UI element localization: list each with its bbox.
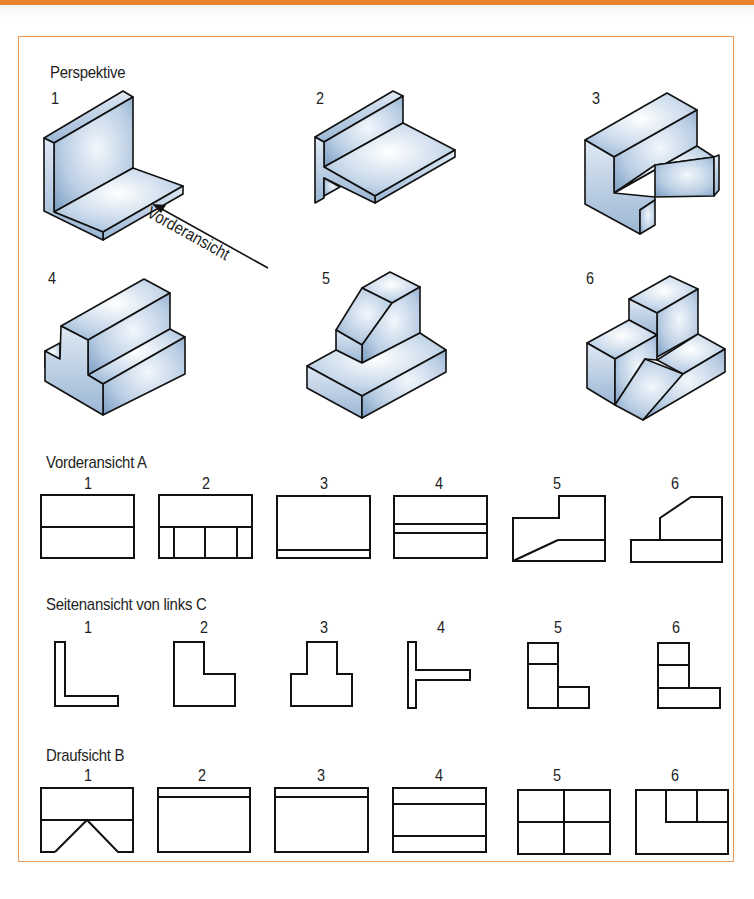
front-view-5 <box>513 496 605 561</box>
side-view-2 <box>174 642 235 706</box>
top-view-number-6: 6 <box>667 766 684 786</box>
top-view-6 <box>636 790 728 854</box>
top-view-number-4: 4 <box>431 766 448 786</box>
side-view-number-1: 1 <box>80 618 97 638</box>
side-view-number-5: 5 <box>550 618 567 638</box>
top-view-number-1: 1 <box>80 766 97 786</box>
side-view-number-6: 6 <box>668 618 685 638</box>
perspective-shape-2 <box>315 91 455 203</box>
front-view-4 <box>394 496 487 558</box>
side-view-6 <box>658 643 720 708</box>
section-title-side-view: Seitenansicht von links C <box>46 595 207 615</box>
front-views <box>41 495 722 562</box>
side-view-number-2: 2 <box>196 618 213 638</box>
top-view-2 <box>158 788 250 852</box>
side-view-4 <box>408 642 470 708</box>
front-view-3 <box>277 496 370 558</box>
front-view-number-4: 4 <box>431 474 448 494</box>
side-view-number-3: 3 <box>316 618 333 638</box>
top-view-5 <box>518 790 610 854</box>
perspective-shape-4 <box>45 279 185 415</box>
top-views <box>41 788 728 854</box>
section-title-front-view: Vorderansicht A <box>46 453 147 473</box>
section-title-perspective: Perspektive <box>50 63 125 83</box>
top-view-number-3: 3 <box>313 766 330 786</box>
perspective-number-3: 3 <box>588 89 605 109</box>
top-view-number-5: 5 <box>549 766 566 786</box>
front-view-number-1: 1 <box>80 474 97 494</box>
side-view-5 <box>528 643 589 708</box>
front-view-number-5: 5 <box>549 474 566 494</box>
front-view-6 <box>631 497 722 562</box>
front-view-1 <box>41 495 134 558</box>
perspective-shape-5 <box>307 272 446 418</box>
top-view-4 <box>393 788 486 852</box>
top-view-1 <box>41 788 133 852</box>
perspective-number-4: 4 <box>44 269 61 289</box>
side-view-3 <box>291 642 352 706</box>
front-view-2 <box>159 495 252 558</box>
side-view-number-4: 4 <box>433 618 450 638</box>
side-views <box>55 642 720 708</box>
perspective-shape-6 <box>587 276 725 420</box>
front-view-number-2: 2 <box>198 474 215 494</box>
perspective-number-6: 6 <box>582 269 599 289</box>
section-title-top-view: Draufsicht B <box>46 746 124 766</box>
perspective-shape-3 <box>585 93 719 234</box>
front-view-number-6: 6 <box>667 474 684 494</box>
front-view-number-3: 3 <box>316 474 333 494</box>
top-view-3 <box>275 788 368 852</box>
side-view-1 <box>55 642 118 706</box>
perspective-number-1: 1 <box>47 89 64 109</box>
top-view-number-2: 2 <box>194 766 211 786</box>
perspective-number-5: 5 <box>318 269 335 289</box>
perspective-number-2: 2 <box>312 89 329 109</box>
